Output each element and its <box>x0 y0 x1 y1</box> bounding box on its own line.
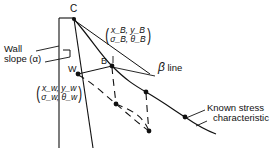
point-b-state-denominator: σ_B, θ_B <box>110 35 145 44</box>
beta-line-w-b <box>78 66 112 74</box>
node-mesh-1 <box>114 102 119 107</box>
paren-close-w: ) <box>78 86 82 100</box>
paren-open-b: ( <box>105 28 109 42</box>
beta-symbol: β <box>158 60 165 74</box>
known-stress-label: Known stress characteristic <box>207 103 269 123</box>
point-b-state-label: (x_B, y_Bσ_B, θ_B) <box>104 26 152 44</box>
known-stress-leader-bottom <box>196 121 207 126</box>
point-label-w: W <box>68 64 77 74</box>
known-stress-label-line2: characteristic <box>207 113 269 123</box>
point-w-state-label: (x_w, y_wσ_w, θ_w) <box>35 84 83 102</box>
point-label-b: B <box>101 56 107 66</box>
point-w-state-denominator: σ_w, θ_w <box>41 93 77 102</box>
beta-line-word: line <box>168 62 183 73</box>
diagram-svg <box>0 0 280 148</box>
known-stress-leader-top <box>186 110 205 118</box>
paren-open-w: ( <box>36 86 40 100</box>
wall-slope-leader-2 <box>45 57 70 62</box>
node-b <box>110 64 115 69</box>
dashed-characteristic-2 <box>112 67 116 104</box>
point-w-state-fraction: x_w, y_wσ_w, θ_w <box>41 84 77 102</box>
beta-line-label: β line <box>158 61 182 74</box>
wall-slope-label-line2: slope (α) <box>4 54 41 64</box>
node-mesh-2 <box>147 129 152 134</box>
paren-close-b: ) <box>147 28 151 42</box>
point-label-c: C <box>70 3 77 14</box>
node-curve-3 <box>183 115 188 120</box>
node-c <box>72 17 76 21</box>
figure-canvas: C W B Wall slope (α) (x_B, y_Bσ_B, θ_B) … <box>0 0 280 148</box>
point-b-state-fraction: x_B, y_Bσ_B, θ_B <box>110 26 145 44</box>
node-curve-2 <box>144 90 149 95</box>
wall-slope-label: Wall slope (α) <box>4 44 41 64</box>
right-angle-marker <box>63 50 70 57</box>
